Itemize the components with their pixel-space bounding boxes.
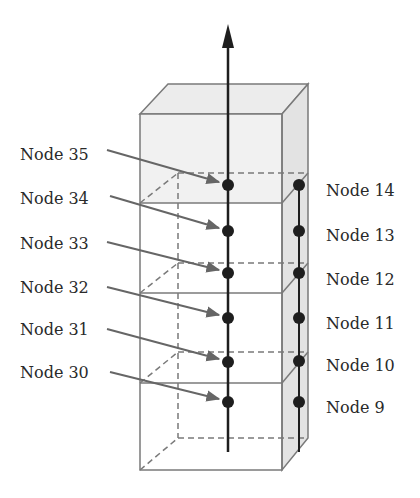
node-34 bbox=[222, 225, 234, 237]
node-31 bbox=[222, 356, 234, 368]
node-13 bbox=[293, 225, 305, 237]
label-node-30: Node 30 bbox=[20, 363, 89, 382]
node-11 bbox=[293, 312, 305, 324]
node-33 bbox=[222, 267, 234, 279]
node-32 bbox=[222, 312, 234, 324]
label-node-14: Node 14 bbox=[326, 181, 395, 200]
label-node-34: Node 34 bbox=[20, 189, 89, 208]
label-node-35: Node 35 bbox=[20, 145, 89, 164]
arrow-node-31 bbox=[107, 329, 219, 359]
node-12 bbox=[293, 267, 305, 279]
arrow-node-33 bbox=[107, 242, 219, 270]
node-14 bbox=[293, 179, 305, 191]
label-node-9: Node 9 bbox=[326, 398, 385, 417]
node-10 bbox=[293, 355, 305, 367]
node-9 bbox=[293, 396, 305, 408]
upper-front-face bbox=[140, 114, 282, 203]
node-35 bbox=[222, 179, 234, 191]
label-node-32: Node 32 bbox=[20, 278, 89, 297]
left-labels: Node 35 Node 34 Node 33 Node 32 Node 31 … bbox=[20, 145, 89, 382]
right-labels: Node 14 Node 13 Node 12 Node 11 Node 10 … bbox=[326, 181, 395, 417]
axis-arrowhead-icon bbox=[222, 24, 234, 48]
label-node-10: Node 10 bbox=[326, 356, 395, 375]
label-node-12: Node 12 bbox=[326, 270, 395, 289]
arrow-node-30 bbox=[110, 372, 219, 399]
label-node-33: Node 33 bbox=[20, 234, 89, 253]
label-node-11: Node 11 bbox=[326, 314, 395, 333]
label-node-31: Node 31 bbox=[20, 320, 89, 339]
label-node-13: Node 13 bbox=[326, 226, 395, 245]
stacked-cube-node-diagram: Node 35 Node 34 Node 33 Node 32 Node 31 … bbox=[0, 0, 420, 498]
top-face bbox=[140, 84, 308, 114]
node-30 bbox=[222, 396, 234, 408]
arrow-node-32 bbox=[107, 287, 219, 315]
